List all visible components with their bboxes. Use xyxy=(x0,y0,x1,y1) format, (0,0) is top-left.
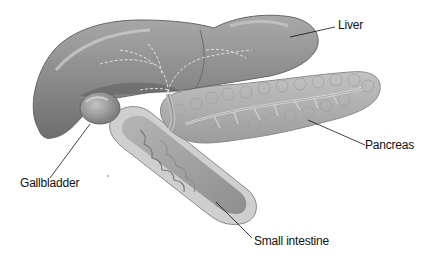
label-pancreas: Pancreas xyxy=(365,138,414,152)
label-small-intestine: Small intestine xyxy=(254,234,329,248)
label-liver: Liver xyxy=(338,18,363,32)
organ-illustration xyxy=(0,0,435,264)
label-gallbladder: Gallbladder xyxy=(20,176,79,190)
pancreas-leader-line xyxy=(308,120,365,145)
anatomy-diagram: Liver Pancreas Gallbladder Small intesti… xyxy=(0,0,435,264)
